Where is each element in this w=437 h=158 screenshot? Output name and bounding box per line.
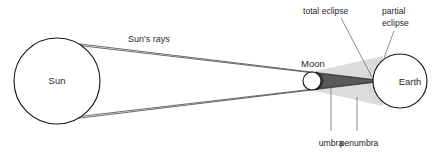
partial-eclipse-label-line1: partial	[382, 6, 405, 16]
moon-circle	[303, 72, 321, 90]
earth-label: Earth	[399, 76, 422, 87]
moon-label: Moon	[301, 58, 325, 69]
partial-eclipse-leader-line	[384, 31, 394, 58]
sun-rays-label: Sun's rays	[128, 34, 170, 44]
partial-eclipse-label-line2: eclipse	[382, 18, 409, 28]
eclipse-diagram: Sun Moon Earth Sun's rays total eclipse …	[0, 0, 437, 158]
ray-line-top-inner	[75, 45, 374, 80]
ray-line-bottom-inner	[75, 82, 374, 117]
penumbra-label: penumbra	[340, 138, 379, 148]
eclipse-diagram-canvas: Sun Moon Earth Sun's rays total eclipse …	[0, 0, 437, 158]
sun-label: Sun	[49, 75, 66, 86]
total-eclipse-label: total eclipse	[303, 6, 349, 16]
